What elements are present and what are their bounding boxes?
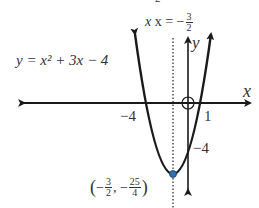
y-axis-label: y bbox=[192, 33, 200, 53]
aos-fraction: 32 bbox=[186, 12, 193, 33]
top-fragment-text: 2 bbox=[155, 0, 161, 4]
x-axis-label: x bbox=[243, 81, 251, 102]
equation-label: y = x² + 3x − 4 bbox=[16, 52, 108, 69]
aos-prefix: x = − bbox=[155, 14, 185, 29]
y-intercept-label: −4 bbox=[193, 140, 209, 157]
vertex-label: ( − 32 , − 254 ) bbox=[90, 177, 148, 198]
axis-of-symmetry-label: x x = −32 bbox=[145, 12, 194, 33]
vertex-point bbox=[170, 171, 177, 178]
x-intercept-left-label: −4 bbox=[120, 108, 136, 125]
x-intercept-right-label: 1 bbox=[204, 108, 212, 125]
